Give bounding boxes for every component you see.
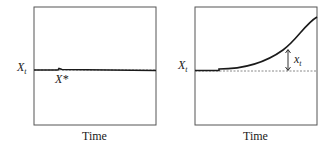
left-x-axis-label: Time xyxy=(82,129,107,144)
left-plot-frame xyxy=(34,7,156,125)
left-series-line xyxy=(34,69,156,71)
left-y-label: Xt xyxy=(17,60,27,76)
diagram-canvas xyxy=(0,0,335,149)
right-x-axis-label: Time xyxy=(243,129,268,144)
deviation-label: xt xyxy=(294,52,302,68)
right-y-label: Xt xyxy=(178,58,188,74)
equilibrium-label: X* xyxy=(55,72,68,87)
